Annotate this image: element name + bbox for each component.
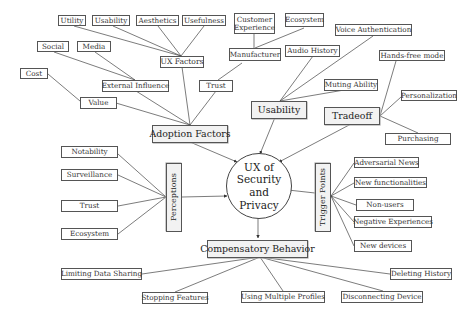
subcategory-ux-factors: UX Factors <box>160 56 204 68</box>
leaf-personalization: Personalization <box>401 90 457 101</box>
leaf-hands-free-mode: Hands-free mode <box>379 50 445 61</box>
leaf-stopping-features: Stopping Features <box>142 292 208 304</box>
leaf-new-functionalities: New functionalities <box>354 177 427 188</box>
leaf-ecosystem-perception: Ecosystem <box>61 228 118 240</box>
leaf-disconnecting-device: Disconnecting Device <box>341 291 423 303</box>
category-compensatory-behavior: Compensatory Behavior <box>207 240 308 258</box>
leaf-audio-history: Audio History <box>285 45 340 57</box>
leaf-deleting-history: Deleting History <box>390 268 452 280</box>
leaf-surveillance: Surveillance <box>61 169 118 181</box>
leaf-limiting-data-sharing: Limiting Data Sharing <box>61 268 142 280</box>
subcategory-manufacturer: Manufacturer <box>229 48 281 61</box>
category-usability: Usability <box>251 101 307 119</box>
central-node-ux-security-privacy: UX of Security and Privacy <box>226 153 292 219</box>
leaf-usefulness: Usefulness <box>182 15 226 26</box>
leaf-ecosystem-manufacturer: Ecosystem <box>285 13 324 27</box>
category-perceptions: Perceptions <box>166 163 182 232</box>
leaf-voice-authentication: Voice Authentication <box>335 24 412 36</box>
leaf-non-users: Non-users <box>356 199 414 211</box>
leaf-negative-experiences: Negative Experiences <box>354 216 432 228</box>
subcategory-external-influence: External Influence <box>102 80 169 92</box>
leaf-trust-perception: Trust <box>61 200 118 212</box>
leaf-usability: Usability <box>92 15 130 26</box>
category-trigger-points: Trigger Points <box>315 163 331 232</box>
leaf-muting-ability: Muting Ability <box>324 79 378 91</box>
category-adoption-factors: Adoption Factors <box>152 125 228 143</box>
leaf-adversarial-news: Adversarial News <box>354 157 419 168</box>
leaf-customer-experience: Customer Experience <box>234 13 275 34</box>
subcategory-value: Value <box>80 97 117 109</box>
leaf-media: Media <box>77 41 111 52</box>
leaf-purchasing: Purchasing <box>385 133 451 145</box>
leaf-cost: Cost <box>20 68 48 79</box>
leaf-utility: Utility <box>58 15 86 26</box>
leaf-using-multiple-profiles: Using Multiple Profiles <box>241 291 325 303</box>
leaf-new-devices: New devices <box>354 240 412 252</box>
category-tradeoff: Tradeoff <box>324 107 380 125</box>
ux-security-privacy-diagram: UX of Security and Privacy Adoption Fact… <box>0 0 475 320</box>
leaf-notability: Notability <box>61 146 118 158</box>
subcategory-trust: Trust <box>199 80 233 92</box>
leaf-social: Social <box>37 41 69 52</box>
leaf-aesthetics: Aesthetics <box>136 15 179 26</box>
